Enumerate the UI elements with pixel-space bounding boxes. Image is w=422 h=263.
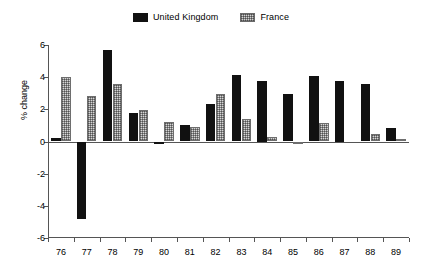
x-tick-mark: [74, 238, 75, 242]
x-tick-label: 80: [159, 248, 169, 257]
x-tick-label: 79: [133, 248, 143, 257]
x-tick-mark: [125, 238, 126, 242]
x-tick-mark: [409, 238, 410, 242]
bar-united-kingdom-89: [386, 128, 396, 142]
bar-united-kingdom-80: [154, 142, 164, 144]
bar-united-kingdom-82: [206, 104, 216, 142]
x-tick-mark: [48, 238, 49, 242]
legend-label-united-kingdom: United Kingdom: [153, 12, 218, 22]
bar-united-kingdom-86: [309, 76, 319, 141]
bar-france-85: [293, 142, 303, 144]
bar-france-82: [216, 94, 226, 141]
chart-legend: United Kingdom France: [0, 12, 422, 22]
bar-united-kingdom-83: [232, 75, 242, 142]
x-tick-mark: [254, 238, 255, 242]
x-tick-mark: [280, 238, 281, 242]
x-tick-label: 81: [185, 248, 195, 257]
bar-france-84: [267, 137, 277, 141]
y-tick-label: -2: [37, 169, 45, 178]
y-tick-label: 6: [40, 41, 45, 50]
bar-france-77: [87, 96, 97, 141]
bar-france-88: [371, 134, 381, 141]
bar-france-86: [319, 123, 329, 141]
bar-france-81: [190, 127, 200, 141]
y-tick-label: -6: [37, 234, 45, 243]
bar-united-kingdom-77: [77, 142, 87, 219]
x-tick-mark: [229, 238, 230, 242]
legend-label-france: France: [260, 12, 289, 22]
plot-area: 6420-2-4-6 7677787980818283848586878889: [48, 45, 409, 238]
bar-united-kingdom-79: [129, 113, 139, 142]
x-tick-label: 88: [365, 248, 375, 257]
x-tick-label: 82: [211, 248, 221, 257]
legend-entry-united-kingdom: United Kingdom: [133, 12, 218, 22]
zero-baseline: [48, 142, 409, 143]
x-tick-label: 84: [262, 248, 272, 257]
x-tick-label: 85: [288, 248, 298, 257]
y-tick-label: -4: [37, 201, 45, 210]
bar-france-76: [61, 77, 71, 141]
x-tick-mark: [177, 238, 178, 242]
x-tick-label: 76: [56, 248, 66, 257]
x-tick-mark: [383, 238, 384, 242]
bar-france-80: [164, 122, 174, 141]
bar-france-79: [139, 110, 149, 141]
bar-united-kingdom-88: [361, 84, 371, 141]
bar-france-89: [396, 139, 406, 141]
legend-swatch-icon-united-kingdom: [133, 13, 148, 22]
y-tick-label: 2: [40, 105, 45, 114]
x-tick-label: 77: [82, 248, 92, 257]
x-tick-label: 87: [340, 248, 350, 257]
x-tick-mark: [203, 238, 204, 242]
y-axis-title: % change: [20, 80, 29, 120]
bar-france-78: [113, 84, 123, 142]
x-tick-mark: [332, 238, 333, 242]
y-tick-label: 4: [40, 73, 45, 82]
bar-united-kingdom-78: [103, 50, 113, 142]
bar-united-kingdom-81: [180, 125, 190, 141]
bar-united-kingdom-87: [335, 81, 345, 141]
bar-united-kingdom-84: [257, 81, 267, 141]
x-tick-mark: [357, 238, 358, 242]
bar-united-kingdom-76: [51, 138, 61, 141]
x-tick-mark: [151, 238, 152, 242]
legend-entry-france: France: [240, 12, 289, 22]
legend-swatch-icon-france: [240, 13, 255, 22]
x-tick-mark: [306, 238, 307, 242]
bar-france-83: [242, 119, 252, 142]
x-tick-label: 83: [236, 248, 246, 257]
bar-chart: United Kingdom France % change 6420-2-4-…: [0, 0, 422, 263]
y-tick-label: 0: [40, 137, 45, 146]
x-tick-label: 78: [107, 248, 117, 257]
x-tick-mark: [100, 238, 101, 242]
bar-united-kingdom-85: [283, 94, 293, 141]
x-tick-label: 86: [314, 248, 324, 257]
x-tick-label: 89: [391, 248, 401, 257]
